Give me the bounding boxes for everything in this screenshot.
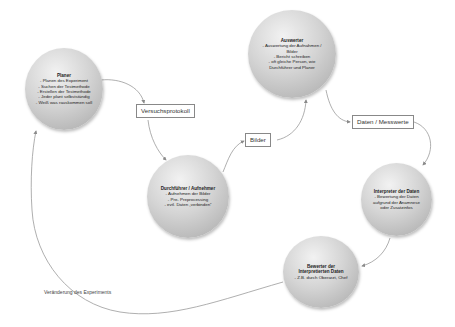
edge-label-versuchsprotokoll: Versuchsprotokoll bbox=[136, 104, 195, 118]
arrow-daten-to-interpreter bbox=[414, 122, 431, 165]
node-bewerter-line: - Z.B. durch Oberarzt, Chef bbox=[295, 275, 348, 280]
edge-label-bilder: Bilder bbox=[245, 133, 271, 147]
node-interpreter-line: oder Zusatzinfos bbox=[380, 205, 412, 210]
node-bewerter: Bewerter der Interpretierten Daten - Z.B… bbox=[283, 236, 359, 308]
arrow-bilder-to-auswerter bbox=[277, 100, 306, 140]
arrow-durchfuehrer-to-bilder bbox=[223, 141, 244, 172]
node-durchfuehrer: Durchführer / Aufnehmer - Aufnehmen der … bbox=[147, 155, 229, 238]
arrow-planer-to-protokoll bbox=[101, 80, 144, 103]
node-planer: Planer - Planen des Experiment - Suchen … bbox=[25, 48, 103, 130]
edge-label-daten-messwerte: Daten / Messwerte bbox=[352, 115, 414, 129]
node-auswerter-line: Durchführer und Planer bbox=[269, 65, 315, 70]
arrow-protokoll-to-durchfuehrer bbox=[148, 120, 166, 160]
node-interpreter: Interpreter der Daten - Bewertung der Da… bbox=[361, 163, 432, 236]
edge-label-veraenderung: Veränderung des Experiments bbox=[44, 289, 111, 295]
node-durchfuehrer-line: - evtl. Daten „verbinden“ bbox=[164, 202, 211, 207]
arrow-interpreter-to-bewerter bbox=[362, 238, 390, 266]
arrow-auswerter-to-daten bbox=[326, 90, 350, 122]
node-planer-line: - Weiß was rauskommen soll bbox=[36, 100, 92, 105]
node-auswerter: Auswerter - Auswertung der Aufnahmen / B… bbox=[248, 10, 336, 98]
